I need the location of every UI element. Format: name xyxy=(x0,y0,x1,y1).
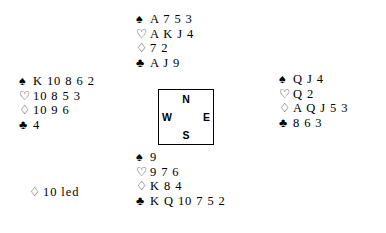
spade-icon: ♠ xyxy=(19,74,32,89)
south-spade-cards: 9 xyxy=(149,150,157,165)
south-club-cards: K Q 10 7 5 2 xyxy=(149,194,226,209)
compass-box: N W E S xyxy=(158,89,214,145)
south-heart-cards: 9 7 6 xyxy=(149,165,180,180)
compass-label-north: N xyxy=(182,94,190,105)
north-diamond-cards: 7 2 xyxy=(149,41,168,56)
diamond-icon: ♢ xyxy=(279,101,292,116)
compass-label-west: W xyxy=(162,112,172,123)
spade-icon: ♠ xyxy=(136,12,149,27)
diamond-icon: ♢ xyxy=(136,41,149,56)
spade-icon: ♠ xyxy=(136,150,149,165)
club-icon: ♣ xyxy=(19,118,32,133)
south-diamond-row: ♢ K 8 4 xyxy=(136,179,226,194)
compass-label-east: E xyxy=(203,112,210,123)
east-spade-cards: Q J 4 xyxy=(292,72,324,87)
east-heart-row: ♡ Q 2 xyxy=(279,87,348,102)
opening-lead-text: 10 led xyxy=(42,185,79,200)
north-club-cards: A J 9 xyxy=(149,56,180,71)
west-heart-cards: 10 8 5 3 xyxy=(32,89,81,104)
hand-east: ♠ Q J 4 ♡ Q 2 ♢ A Q J 5 3 ♣ 8 6 3 xyxy=(279,72,348,130)
hand-south: ♠ 9 ♡ 9 7 6 ♢ K 8 4 ♣ K Q 10 7 5 2 xyxy=(136,150,226,208)
hand-north: ♠ A 7 5 3 ♡ A K J 4 ♢ 7 2 ♣ A J 9 xyxy=(136,12,194,70)
east-club-cards: 8 6 3 xyxy=(292,116,323,131)
north-diamond-row: ♢ 7 2 xyxy=(136,41,194,56)
west-diamond-cards: 10 9 6 xyxy=(32,103,70,118)
club-icon: ♣ xyxy=(136,194,149,209)
east-heart-cards: Q 2 xyxy=(292,87,314,102)
north-heart-row: ♡ A K J 4 xyxy=(136,27,194,42)
heart-icon: ♡ xyxy=(136,165,149,180)
opening-lead-note: ♢ 10 led xyxy=(29,185,79,200)
east-club-row: ♣ 8 6 3 xyxy=(279,116,348,131)
hand-west: ♠ K 10 8 6 2 ♡ 10 8 5 3 ♢ 10 9 6 ♣ 4 xyxy=(19,74,95,132)
west-club-row: ♣ 4 xyxy=(19,118,95,133)
west-diamond-row: ♢ 10 9 6 xyxy=(19,103,95,118)
west-club-cards: 4 xyxy=(32,118,40,133)
east-diamond-row: ♢ A Q J 5 3 xyxy=(279,101,348,116)
west-spade-cards: K 10 8 6 2 xyxy=(32,74,95,89)
diamond-icon: ♢ xyxy=(136,179,149,194)
spade-icon: ♠ xyxy=(279,72,292,87)
diamond-icon: ♢ xyxy=(19,103,32,118)
west-spade-row: ♠ K 10 8 6 2 xyxy=(19,74,95,89)
heart-icon: ♡ xyxy=(136,27,149,42)
south-spade-row: ♠ 9 xyxy=(136,150,226,165)
east-diamond-cards: A Q J 5 3 xyxy=(292,101,348,116)
south-club-row: ♣ K Q 10 7 5 2 xyxy=(136,194,226,209)
north-club-row: ♣ A J 9 xyxy=(136,56,194,71)
south-diamond-cards: K 8 4 xyxy=(149,179,182,194)
north-spade-cards: A 7 5 3 xyxy=(149,12,193,27)
south-heart-row: ♡ 9 7 6 xyxy=(136,165,226,180)
diamond-icon: ♢ xyxy=(29,185,42,200)
west-heart-row: ♡ 10 8 5 3 xyxy=(19,89,95,104)
heart-icon: ♡ xyxy=(279,87,292,102)
heart-icon: ♡ xyxy=(19,89,32,104)
north-spade-row: ♠ A 7 5 3 xyxy=(136,12,194,27)
compass-label-south: S xyxy=(182,130,189,141)
bridge-deal-diagram: ♠ A 7 5 3 ♡ A K J 4 ♢ 7 2 ♣ A J 9 ♠ K 10… xyxy=(0,0,386,233)
club-icon: ♣ xyxy=(279,116,292,131)
club-icon: ♣ xyxy=(136,56,149,71)
east-spade-row: ♠ Q J 4 xyxy=(279,72,348,87)
north-heart-cards: A K J 4 xyxy=(149,27,194,42)
